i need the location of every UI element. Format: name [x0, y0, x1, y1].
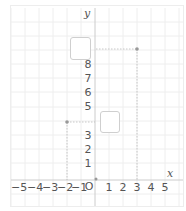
- x-tick-neg5: −5: [11, 182, 27, 194]
- x-tick-3: 3: [131, 182, 143, 194]
- y-tick-3: 3: [82, 130, 94, 142]
- point-b-marker: [65, 120, 69, 124]
- x-tick-5: 5: [159, 182, 171, 194]
- x-axis-label: x: [167, 167, 173, 180]
- grid: [11, 8, 183, 206]
- x-tick-2: 2: [117, 182, 129, 194]
- x-tick-neg1: −1: [71, 182, 85, 194]
- x-tick-neg4: −4: [27, 182, 43, 194]
- point-a-marker: [135, 47, 139, 51]
- answer-box-y9[interactable]: [70, 37, 91, 60]
- x-tick-4: 4: [145, 182, 157, 194]
- y-tick-1: 1: [82, 158, 94, 170]
- y-tick-8: 8: [82, 59, 94, 71]
- y-tick-2: 2: [82, 144, 94, 156]
- y-axis-label: y: [84, 7, 90, 20]
- x-tick-1: 1: [103, 182, 115, 194]
- y-tick-5: 5: [82, 101, 94, 113]
- y-tick-6: 6: [82, 87, 94, 99]
- y-tick-7: 7: [82, 73, 94, 85]
- x-tick-neg3: −3: [42, 182, 58, 194]
- answer-box-y4[interactable]: [100, 111, 120, 133]
